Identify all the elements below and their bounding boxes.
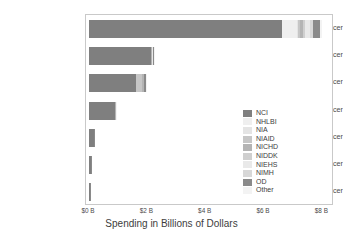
- plot-area: [85, 14, 333, 205]
- bar-segment: [116, 102, 117, 120]
- bar-segment: [94, 129, 95, 147]
- bar-segment: [91, 156, 92, 174]
- legend-label: NIAID: [256, 135, 275, 144]
- bar-row: [86, 129, 334, 147]
- bar-segment: [89, 102, 115, 120]
- legend-label: OD: [256, 178, 267, 187]
- bar-segment: [90, 183, 91, 201]
- bar-row: [86, 74, 334, 92]
- legend-swatch-icon: [243, 179, 252, 186]
- x-axis-tick-label: $6 B: [256, 207, 269, 214]
- legend-swatch-icon: [243, 170, 252, 177]
- x-axis-tick-label: $0 B: [81, 207, 94, 214]
- x-axis-title: Spending in Billions of Dollars: [0, 218, 343, 229]
- legend-label: NICHD: [256, 143, 278, 152]
- legend-item[interactable]: NIEHS: [243, 161, 278, 170]
- x-axis-tick-label: $8 B: [315, 207, 328, 214]
- legend-label: NHLBI: [256, 118, 277, 127]
- legend-item[interactable]: NHLBI: [243, 118, 278, 127]
- bar-row: [86, 183, 334, 201]
- bar-segment: [89, 47, 151, 65]
- bar-segment: [89, 20, 282, 38]
- legend-item[interactable]: Other: [243, 186, 278, 195]
- legend-item[interactable]: NIMH: [243, 169, 278, 178]
- legend-swatch-icon: [243, 136, 252, 143]
- legend-item[interactable]: NIAID: [243, 135, 278, 144]
- bar-segment: [154, 47, 155, 65]
- legend-swatch-icon: [243, 153, 252, 160]
- legend-swatch-icon: [243, 127, 252, 134]
- bar-segment: [146, 74, 147, 92]
- legend-label: NIEHS: [256, 161, 277, 170]
- bar-segment: [320, 20, 322, 38]
- bar-row: [86, 102, 334, 120]
- legend: NCINHLBINIANIAIDNICHDNIDDKNIEHSNIMHODOth…: [243, 109, 278, 195]
- legend-label: Other: [256, 186, 274, 195]
- legend-item[interactable]: NCI: [243, 109, 278, 118]
- legend-swatch-icon: [243, 110, 252, 117]
- legend-label: NIDDK: [256, 152, 278, 161]
- bar-segment: [313, 20, 320, 38]
- x-axis-tick-label: $2 B: [140, 207, 153, 214]
- bar-segment: [89, 74, 136, 92]
- legend-swatch-icon: [243, 144, 252, 151]
- legend-swatch-icon: [243, 118, 252, 125]
- legend-item[interactable]: NICHD: [243, 143, 278, 152]
- legend-swatch-icon: [243, 161, 252, 168]
- legend-label: NIMH: [256, 169, 274, 178]
- legend-item[interactable]: NIA: [243, 126, 278, 135]
- legend-item[interactable]: OD: [243, 178, 278, 187]
- legend-label: NIA: [256, 126, 268, 135]
- bar-row: [86, 20, 334, 38]
- chart-figure: Breast CancerOvarian CancerCervical Canc…: [0, 0, 343, 247]
- legend-label: NCI: [256, 109, 268, 118]
- legend-item[interactable]: NIDDK: [243, 152, 278, 161]
- legend-swatch-icon: [243, 187, 252, 194]
- x-axis-tick-label: $4 B: [198, 207, 211, 214]
- bar-row: [86, 47, 334, 65]
- bar-row: [86, 156, 334, 174]
- bar-segment: [282, 20, 297, 38]
